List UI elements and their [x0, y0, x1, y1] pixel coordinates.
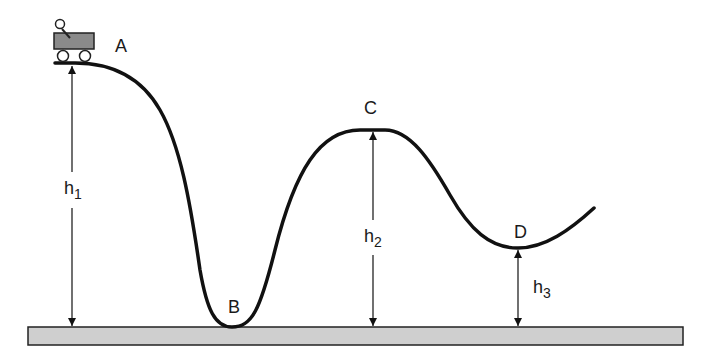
- point-label-d: D: [514, 222, 527, 242]
- cart: [54, 20, 94, 62]
- height-label-h2: h2: [364, 226, 382, 250]
- cart-body: [54, 33, 94, 49]
- h1-base: h: [64, 178, 74, 198]
- point-label-a: A: [115, 36, 127, 56]
- point-label-c: C: [364, 98, 377, 118]
- height-label-h1: h1: [64, 178, 82, 202]
- track-curve: [55, 63, 594, 327]
- cart-wheel-right: [80, 51, 91, 62]
- ground: [28, 327, 683, 345]
- h2-base: h: [364, 226, 374, 246]
- rider-head: [56, 20, 65, 29]
- h1-sub: 1: [74, 186, 82, 202]
- height-label-h3: h3: [533, 277, 551, 301]
- h3-base: h: [533, 277, 543, 297]
- roller-coaster-diagram: A B C D h1 h2 h3: [0, 0, 710, 357]
- h3-sub: 3: [543, 285, 551, 301]
- cart-wheel-left: [58, 51, 69, 62]
- point-label-b: B: [228, 297, 240, 317]
- h2-sub: 2: [374, 234, 382, 250]
